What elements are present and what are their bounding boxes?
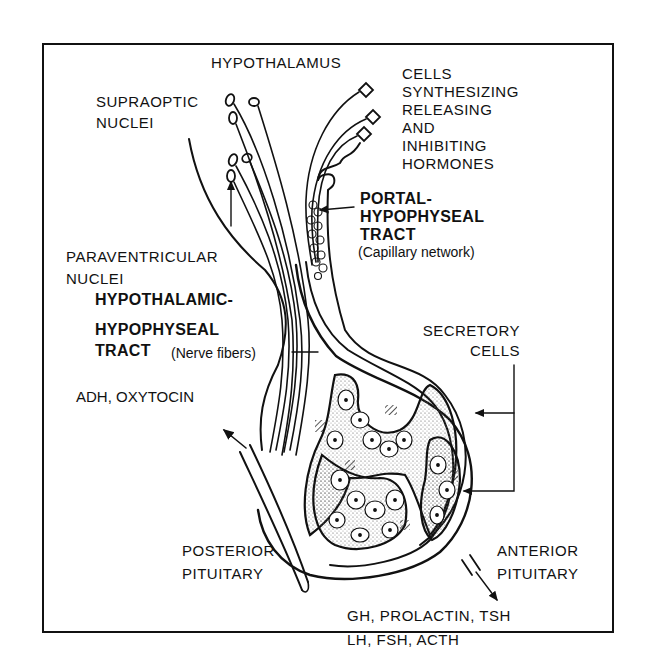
label-anterior-2: PITUITARY: [497, 565, 578, 583]
releasing-fibers: [306, 92, 366, 265]
label-cells-5: INHIBITING: [402, 137, 487, 155]
label-anterior-hormones-1: GH, PROLACTIN, TSH: [347, 607, 511, 625]
label-anterior-hormones-2: LH, FSH, ACTH: [347, 631, 459, 649]
label-hh-tract-3: TRACT: [95, 342, 151, 360]
label-paraventricular-2: NUCLEI: [66, 270, 124, 288]
label-anterior-1: ANTERIOR: [497, 542, 579, 560]
label-supraoptic-1: SUPRAOPTIC: [96, 93, 199, 111]
label-hypothalamus: HYPOTHALAMUS: [211, 54, 341, 72]
label-secretory-2: CELLS: [397, 342, 520, 360]
label-cells-6: HORMONES: [402, 155, 494, 173]
label-portal-note: (Capillary network): [358, 243, 475, 261]
releasing-cells: [357, 83, 380, 141]
label-portal-1: PORTAL-: [360, 190, 432, 208]
label-secretory-1: SECRETORY: [397, 322, 520, 340]
label-portal-2: HYPOPHYSEAL: [360, 208, 484, 226]
label-cells-2: SYNTHESIZING: [402, 83, 519, 101]
label-cells-4: AND: [402, 119, 435, 137]
label-hh-tract-2: HYPOPHYSEAL: [95, 321, 219, 339]
label-portal-3: TRACT: [360, 226, 416, 244]
label-cells-3: RELEASING: [402, 101, 492, 119]
label-hh-tract-1: HYPOTHALAMIC-: [95, 291, 233, 309]
label-posterior-1: POSTERIOR: [182, 542, 275, 560]
label-hh-note: (Nerve fibers): [171, 344, 256, 362]
label-posterior-2: PITUITARY: [182, 565, 263, 583]
label-paraventricular-1: PARAVENTRICULAR: [66, 248, 218, 266]
label-adh-oxytocin: ADH, OXYTOCIN: [76, 388, 194, 406]
label-supraoptic-2: NUCLEI: [96, 114, 154, 132]
label-cells-1: CELLS: [402, 65, 452, 83]
